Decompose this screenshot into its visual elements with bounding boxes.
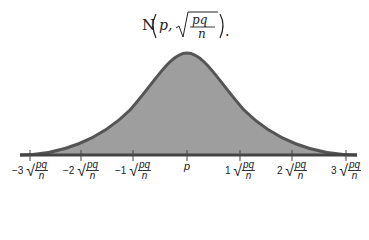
tick-label-minus3: −3 √pqn bbox=[12, 160, 48, 181]
tick-label-minus1: −1 √pqn bbox=[115, 160, 151, 181]
tick-label-p: p bbox=[184, 160, 190, 172]
curve-area bbox=[20, 53, 357, 155]
tick-label-plus1: 1 √pqn bbox=[225, 160, 255, 181]
tick-label-plus2: 2 √pqn bbox=[277, 160, 307, 181]
tick-label-plus3: 3 √pqn bbox=[331, 160, 361, 181]
tick-label-minus2: −2 √pqn bbox=[63, 160, 99, 181]
